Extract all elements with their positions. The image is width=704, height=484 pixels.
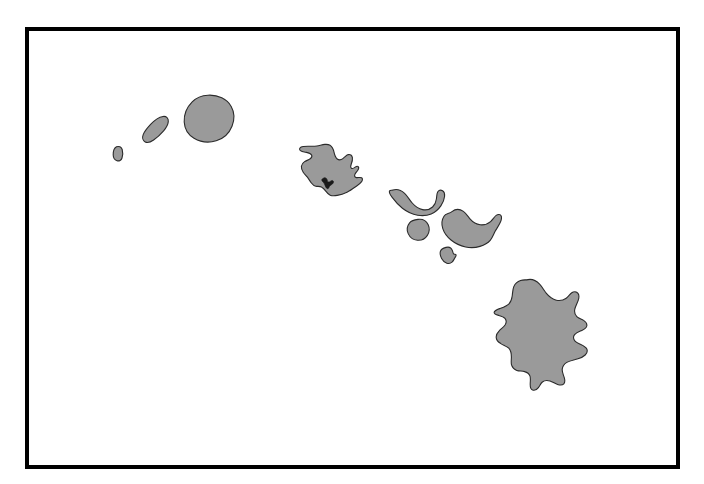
island-maui[interactable] [442, 210, 502, 248]
island-molokai[interactable] [389, 190, 444, 216]
island-kahoolawe[interactable] [440, 247, 456, 263]
island-kauai[interactable] [184, 95, 234, 142]
island-lanai[interactable] [407, 219, 429, 240]
island-kaula[interactable] [113, 146, 122, 160]
island-niihau[interactable] [143, 116, 169, 142]
island-hawaii[interactable] [494, 279, 587, 390]
hawaii-islands-map [0, 0, 704, 484]
island-oahu[interactable] [300, 144, 363, 195]
map-page [0, 0, 704, 484]
